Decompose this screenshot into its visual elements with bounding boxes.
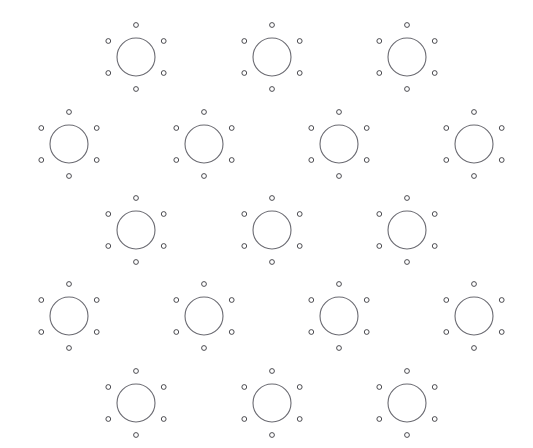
lattice-pattern-canvas: [0, 0, 533, 448]
pattern-figure: [0, 0, 533, 448]
